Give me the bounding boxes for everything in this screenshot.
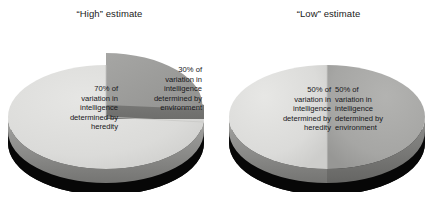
pie-chart-figure: “High” estimate <box>0 0 438 206</box>
slice-label-high-environment: 30% of variation in intelligence determi… <box>114 65 202 113</box>
slice-label-low-environment: 50% of variation in intelligence determi… <box>335 85 423 133</box>
panel-high-estimate: “High” estimate <box>0 0 219 206</box>
pie-high-estimate: 70% of variation in intelligence determi… <box>4 27 209 192</box>
panel-title-low-estimate: “Low” estimate <box>219 8 438 19</box>
slice-label-low-heredity: 50% of variation in intelligence determi… <box>245 85 331 133</box>
panel-low-estimate: “Low” estimate <box>219 0 438 206</box>
panel-title-high-estimate: “High” estimate <box>0 8 219 19</box>
pie-low-estimate: 50% of variation in intelligence determi… <box>225 27 430 192</box>
slice-label-high-heredity: 70% of variation in intelligence determi… <box>32 84 118 132</box>
